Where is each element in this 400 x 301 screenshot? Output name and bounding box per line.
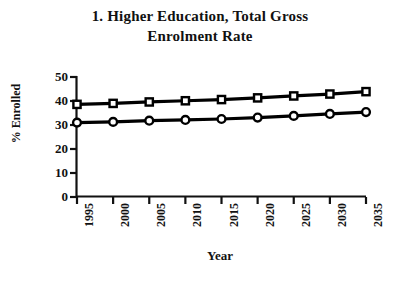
data-point-marker — [182, 97, 189, 104]
x-tick-label: 2020 — [264, 203, 276, 249]
data-point-marker — [73, 119, 81, 127]
data-point-marker — [362, 88, 369, 95]
data-point-marker — [254, 94, 261, 101]
data-point-marker — [110, 100, 117, 107]
data-point-marker — [145, 117, 153, 125]
data-point-marker — [290, 92, 297, 99]
data-point-marker — [326, 110, 334, 118]
chart-figure: 1. Higher Education, Total Gross Enrolme… — [0, 0, 400, 301]
data-point-marker — [146, 98, 153, 105]
y-tick-label: 0 — [36, 190, 68, 203]
data-point-marker — [73, 101, 80, 108]
x-tick-label: 2025 — [300, 203, 312, 249]
data-point-marker — [109, 118, 117, 126]
series-markers — [73, 88, 370, 126]
x-tick-label: 2030 — [336, 203, 348, 249]
x-tick-label: 2005 — [155, 203, 167, 249]
data-point-marker — [218, 115, 226, 123]
data-point-marker — [218, 96, 225, 103]
x-tick-label: 2010 — [191, 203, 203, 249]
y-tick-label: 30 — [36, 118, 68, 131]
x-tick-label: 2035 — [372, 203, 384, 249]
x-tick-label: 2015 — [228, 203, 240, 249]
x-tick-label: 2000 — [119, 203, 131, 249]
y-tick-label: 10 — [36, 166, 68, 179]
x-axis-label: Year — [60, 248, 380, 264]
y-tick-label: 40 — [36, 94, 68, 107]
data-point-marker — [290, 112, 298, 120]
plot-area: 01020304050 1995200020052010201520202025… — [0, 0, 400, 301]
data-point-marker — [181, 116, 189, 124]
y-axis-label: % Enrolled — [9, 74, 24, 154]
x-tick-label: 1995 — [83, 203, 95, 249]
y-tick-label: 20 — [36, 142, 68, 155]
data-point-marker — [362, 108, 370, 116]
data-point-marker — [254, 114, 262, 122]
y-tick-label: 50 — [36, 70, 68, 83]
data-point-marker — [326, 90, 333, 97]
